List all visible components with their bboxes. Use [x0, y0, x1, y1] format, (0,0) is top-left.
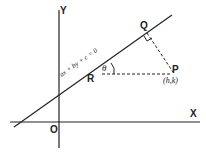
angle-arc [111, 63, 114, 74]
point-R-label: R [87, 73, 94, 84]
point-P-coords: (h,k) [163, 76, 178, 85]
point-Q-label: Q [140, 20, 148, 31]
y-axis-label: Y [60, 5, 67, 16]
right-angle-mark [144, 36, 152, 41]
origin-label: O [50, 124, 58, 135]
point-P-label: P [172, 64, 179, 75]
diagram: Y X O Q P (h,k) R θ ax + by + c = 0 [0, 0, 206, 158]
line-ax-by-c [14, 15, 172, 127]
x-axis-label: X [190, 108, 197, 119]
angle-theta-label: θ [102, 63, 106, 73]
